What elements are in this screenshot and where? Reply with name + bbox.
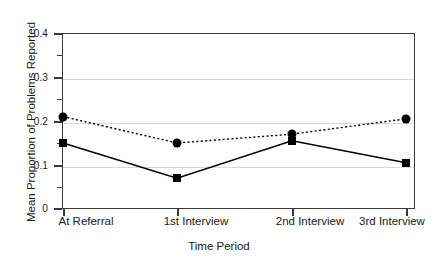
- x-axis-title: Time Period: [0, 240, 438, 252]
- y-tick-0.3: [54, 77, 62, 79]
- y-tick-0.2: [54, 121, 62, 123]
- gridline-0.2: [63, 123, 414, 124]
- y-tick-0.35: [57, 55, 62, 56]
- gridline-0.1: [63, 167, 414, 168]
- gridline-0.3: [63, 79, 414, 80]
- x-tick-label-1st-interview: 1st Interview: [164, 215, 229, 227]
- y-tick-0.25: [57, 99, 62, 100]
- y-tick-0.15: [57, 143, 62, 144]
- plot-area: [62, 33, 415, 209]
- x-tick-label-3rd-interview: 3rd Interview: [359, 215, 425, 227]
- y-tick-0.05: [57, 187, 62, 188]
- y-tick-0.4: [54, 33, 62, 35]
- y-tick-0.1: [54, 165, 62, 167]
- y-tick-0: [54, 208, 62, 210]
- x-tick-label-2nd-interview: 2nd Interview: [276, 215, 344, 227]
- chart-figure: 0.4 0.3 0.2 0.1 0 At Referral 1st Interv…: [0, 0, 438, 264]
- x-tick-label-at-referral: At Referral: [59, 215, 114, 227]
- y-axis-title: Mean Proportion of Problems Reported: [25, 0, 37, 247]
